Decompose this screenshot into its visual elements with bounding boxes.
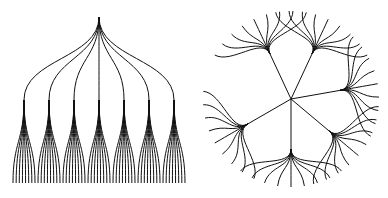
radial-leaf-edge xyxy=(289,11,313,54)
radial-edge xyxy=(270,54,291,99)
radial-edge xyxy=(248,99,291,124)
radial-leaf-edge xyxy=(241,149,291,171)
radial-leaf-edge xyxy=(252,149,291,178)
tree-diagrams xyxy=(0,0,388,198)
radial-leaf-edge xyxy=(291,149,330,178)
radial-edge xyxy=(291,54,312,99)
radial-leaf-edge xyxy=(291,149,341,171)
radial-edge xyxy=(291,99,329,131)
radial-leaf-edge xyxy=(340,90,375,124)
radial-leaf-edge xyxy=(329,107,378,134)
radial-leaf-edge xyxy=(203,91,247,125)
radial-leaf-edge xyxy=(269,11,293,54)
radial-leaf-edge xyxy=(241,124,247,172)
radial-leaf-edge xyxy=(269,12,306,53)
radial-tree-diagram xyxy=(0,0,388,198)
radial-leaf-edge xyxy=(340,37,353,91)
radial-edge xyxy=(291,90,340,99)
radial-leaf-edge xyxy=(313,131,333,184)
radial-leaf-edge xyxy=(312,34,350,54)
radial-leaf-edge xyxy=(215,48,270,57)
radial-leaf-edge xyxy=(276,12,313,53)
radial-leaf-edge xyxy=(243,124,255,179)
radial-leaf-edge xyxy=(232,34,270,54)
